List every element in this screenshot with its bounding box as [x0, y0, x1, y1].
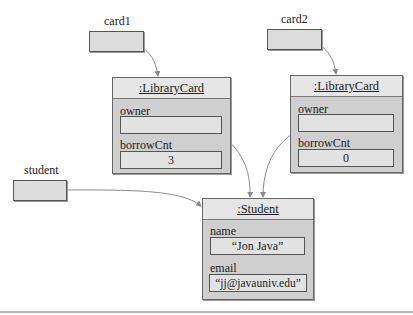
- student-object: :Student name “Jon Java” email “jj@javau…: [202, 198, 314, 300]
- variable-box-card2: [267, 29, 322, 50]
- variable-label-card1: card1: [104, 14, 131, 29]
- field-value-owner: [120, 116, 222, 134]
- variable-box-card1: [89, 31, 144, 52]
- bottom-divider: [0, 311, 413, 313]
- variable-label-student: student: [24, 163, 59, 178]
- field-value-name: “Jon Java”: [210, 237, 305, 255]
- field-value-borrowcnt: 3: [120, 151, 222, 169]
- variable-label-card2: card2: [281, 12, 308, 27]
- object-title: :Student: [203, 199, 313, 220]
- object-title: :LibraryCard: [113, 78, 230, 99]
- object-title: :LibraryCard: [291, 76, 402, 97]
- field-value-owner: [298, 114, 394, 132]
- librarycard-object-1: :LibraryCard owner borrowCnt 3: [112, 77, 231, 174]
- field-value-borrowcnt: 0: [298, 149, 394, 167]
- librarycard-object-2: :LibraryCard owner borrowCnt 0: [290, 75, 403, 173]
- field-value-email: “jj@javauniv.edu”: [209, 274, 307, 292]
- variable-box-student: [13, 180, 67, 201]
